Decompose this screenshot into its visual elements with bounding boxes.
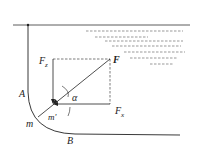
- label-m: m: [26, 119, 33, 129]
- hydrostatic-force-diagram: [0, 0, 197, 155]
- label-B: B: [67, 136, 73, 146]
- F-resultant-vector: [38, 59, 110, 117]
- label-Fz: Fz: [39, 56, 48, 70]
- diagram-canvas: F Fz Fx α m' m A B: [0, 0, 197, 155]
- label-F: F: [113, 55, 120, 65]
- alpha-arc-lower: [68, 107, 70, 116]
- label-m-prime: m': [48, 112, 56, 122]
- label-alpha: α: [72, 93, 77, 103]
- label-A: A: [19, 89, 25, 99]
- water-surface-dashes: [86, 31, 185, 64]
- label-Fx: Fx: [115, 106, 124, 120]
